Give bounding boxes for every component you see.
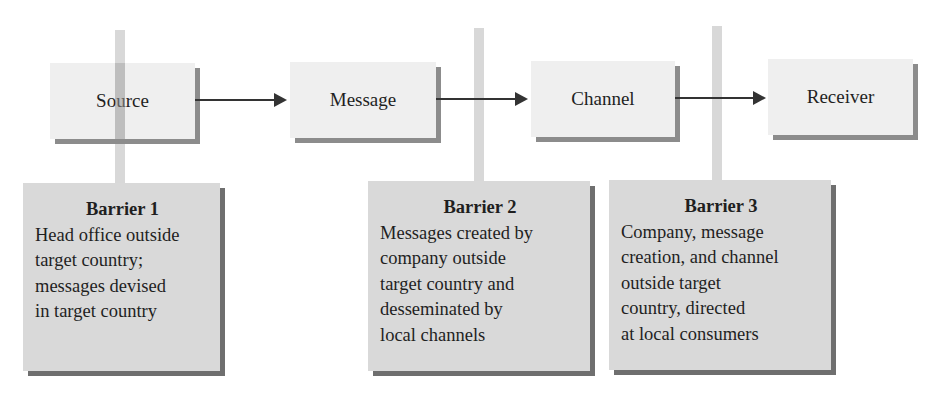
barrier-3-line: at local consumers	[621, 322, 821, 348]
receiver-box: Receiver	[768, 59, 913, 135]
barrier-3-box: Barrier 3 Company, message creation, and…	[609, 180, 831, 370]
message-label: Message	[330, 89, 396, 111]
arrow-source-to-message	[195, 99, 285, 101]
barrier-3-line: Company, message	[621, 220, 821, 246]
receiver-label: Receiver	[807, 86, 875, 108]
arrow-message-to-channel	[436, 98, 526, 100]
barrier-1-line: Head office outside	[35, 223, 210, 249]
barrier-2-line: target country and	[380, 272, 580, 298]
channel-box: Channel	[531, 61, 675, 137]
barrier-3-title: Barrier 3	[621, 194, 821, 220]
barrier-3-connector	[712, 26, 722, 183]
channel-label: Channel	[571, 88, 634, 110]
barrier-2-box: Barrier 2 Messages created by company ou…	[368, 181, 590, 371]
barrier-1-line: messages devised	[35, 274, 210, 300]
barrier-2-line: Messages created by	[380, 221, 580, 247]
barrier-2-line: local channels	[380, 323, 580, 349]
barrier-1-line: in target country	[35, 299, 210, 325]
barrier-2-line: desseminated by	[380, 297, 580, 323]
message-box: Message	[290, 62, 436, 138]
barrier-2-line: company outside	[380, 246, 580, 272]
barrier-2-connector	[474, 28, 484, 183]
barrier-1-connector-overlay	[115, 63, 125, 139]
barrier-2-title: Barrier 2	[380, 195, 580, 221]
barrier-1-line: target country;	[35, 248, 210, 274]
barrier-1-box: Barrier 1 Head office outside target cou…	[23, 183, 220, 371]
barrier-3-line: country, directed	[621, 296, 821, 322]
barrier-3-line: creation, and channel	[621, 245, 821, 271]
barrier-3-line: outside target	[621, 271, 821, 297]
arrow-channel-to-receiver	[675, 97, 764, 99]
barrier-1-title: Barrier 1	[35, 197, 210, 223]
